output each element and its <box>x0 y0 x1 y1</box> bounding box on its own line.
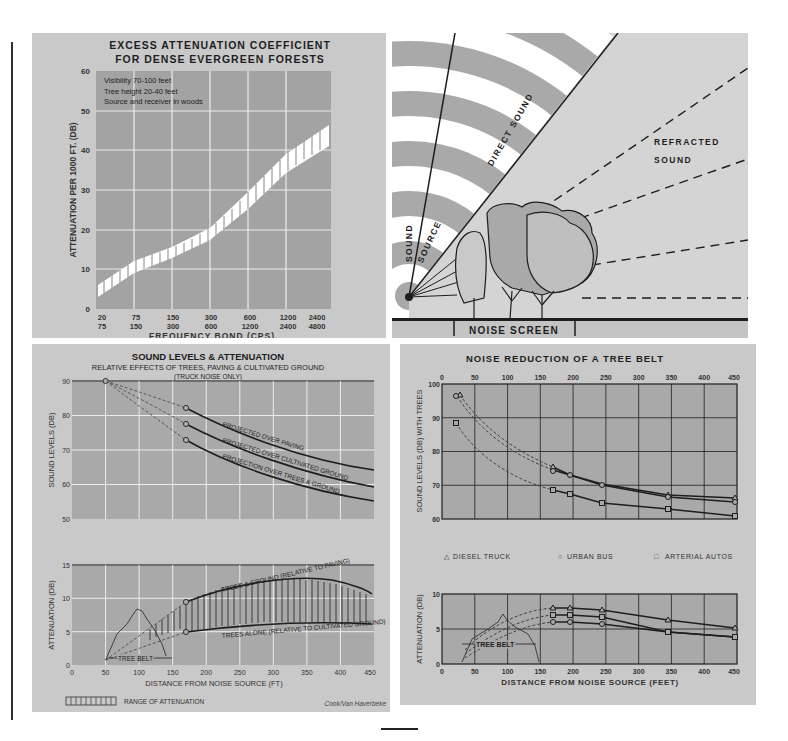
legend-diesel-truck: DIESEL TRUCK <box>453 553 511 560</box>
svg-text:20: 20 <box>81 226 90 235</box>
svg-text:350: 350 <box>301 669 313 676</box>
svg-text:50: 50 <box>102 669 110 676</box>
lower-y-label: ATTENUATION (DB) <box>47 580 56 650</box>
svg-text:100: 100 <box>502 374 514 381</box>
lower-x-ticks: 050 100150 200250 300350 400450 <box>440 668 740 675</box>
upper-y-label: SOUND LEVELS (DB) <box>47 412 56 488</box>
svg-text:20: 20 <box>98 313 106 322</box>
svg-text:5: 5 <box>66 629 70 636</box>
legend-range-swatch <box>66 697 116 705</box>
svg-text:400: 400 <box>698 668 710 675</box>
top-x-ticks: 050 100150 200250 300350 400450 <box>440 374 740 381</box>
tree-belt-label: TREE BELT <box>476 641 515 648</box>
svg-text:450: 450 <box>728 668 740 675</box>
svg-text:350: 350 <box>666 374 678 381</box>
svg-text:150: 150 <box>167 313 180 322</box>
svg-text:15: 15 <box>62 562 70 569</box>
svg-text:50: 50 <box>471 374 479 381</box>
svg-text:150: 150 <box>534 668 546 675</box>
svg-text:200: 200 <box>567 668 579 675</box>
sound-levels-attenuation-chart: SOUND LEVELS & ATTENUATION RELATIVE EFFE… <box>32 344 390 712</box>
svg-text:450: 450 <box>728 374 740 381</box>
svg-text:70: 70 <box>62 447 70 454</box>
panel-noise-screen-diagram: NOISE SCREEN DIRECT SOUND REFRACTED SOUN… <box>392 33 748 338</box>
legend-arterial-autos-icon: □ <box>654 553 659 560</box>
svg-text:1200: 1200 <box>280 313 297 322</box>
svg-text:0: 0 <box>440 374 444 381</box>
svg-text:100: 100 <box>502 668 514 675</box>
svg-text:200: 200 <box>567 374 579 381</box>
sound-label: SOUND <box>404 224 414 262</box>
svg-text:75: 75 <box>98 322 106 331</box>
credit-text: Cook/Van Haverbeke <box>324 700 386 707</box>
svg-text:300: 300 <box>633 668 645 675</box>
upper-y-ticks: 60 70 80 90 100 <box>428 381 440 523</box>
legend-urban-bus-icon: ○ <box>558 553 562 560</box>
svg-text:0: 0 <box>86 305 91 314</box>
chart-title: SOUND LEVELS & ATTENUATION <box>132 351 284 362</box>
x-axis-label: DISTANCE FROM NOISE SOURCE (FEET) <box>501 678 678 687</box>
svg-text:300: 300 <box>633 374 645 381</box>
svg-text:0: 0 <box>440 668 444 675</box>
svg-text:10: 10 <box>432 591 440 598</box>
svg-text:0: 0 <box>66 662 70 669</box>
svg-text:250: 250 <box>234 669 246 676</box>
refracted-label-line1: REFRACTED <box>654 137 720 147</box>
page-margin-rule <box>11 42 13 720</box>
panel-attenuation-coefficient: EXCESS ATTENUATION COEFFICIENT FOR DENSE… <box>32 33 386 338</box>
svg-text:80: 80 <box>62 412 70 419</box>
svg-text:150: 150 <box>167 669 179 676</box>
svg-text:0: 0 <box>70 669 74 676</box>
upper-y-ticks: 50 60 70 80 90 <box>62 378 70 523</box>
note-tree-height: Tree height 20-40 feet <box>104 87 178 96</box>
svg-text:40: 40 <box>81 146 90 155</box>
note-source-receiver: Source and receiver in woods <box>104 97 203 106</box>
svg-text:4800: 4800 <box>309 322 326 331</box>
svg-text:600: 600 <box>244 313 257 322</box>
svg-text:90: 90 <box>432 415 440 422</box>
chart-title-line1: EXCESS ATTENUATION COEFFICIENT <box>109 39 331 51</box>
svg-text:10: 10 <box>62 595 70 602</box>
svg-text:150: 150 <box>534 374 546 381</box>
lower-y-ticks: 0 5 10 <box>432 591 440 668</box>
svg-text:0: 0 <box>436 661 440 668</box>
upper-y-label: SOUND LEVELS (DB) WITH TREES <box>415 389 424 512</box>
legend-urban-bus: URBAN BUS <box>567 553 613 560</box>
x-axis-ticks: 2075 75150 150300 300600 6001200 1200240… <box>98 313 326 331</box>
svg-text:10: 10 <box>81 265 90 274</box>
svg-text:400: 400 <box>335 669 347 676</box>
svg-text:70: 70 <box>432 482 440 489</box>
page-footer-rule <box>381 728 418 730</box>
chart-subtitle: RELATIVE EFFECTS OF TREES, PAVING & CULT… <box>92 363 325 372</box>
svg-text:60: 60 <box>81 67 90 76</box>
svg-text:300: 300 <box>267 669 279 676</box>
chart-title-line2: FOR DENSE EVERGREEN FORESTS <box>115 53 325 65</box>
svg-text:150: 150 <box>130 322 143 331</box>
x-axis-label: FREQUENCY BOND (CPS) <box>149 331 275 338</box>
note-visibility: Visibility 70-100 feet <box>104 76 172 85</box>
y-axis-ticks: 0 10 20 30 40 50 60 <box>81 67 90 314</box>
chart-title: NOISE REDUCTION OF A TREE BELT <box>466 353 664 364</box>
svg-text:300: 300 <box>205 313 218 322</box>
y-axis-label: ATTENUATION PER 1000 FT. (DB) <box>68 122 78 257</box>
noise-screen-label: NOISE SCREEN <box>469 325 559 336</box>
panel-noise-reduction-tree-belt: NOISE REDUCTION OF A TREE BELT <box>400 344 756 705</box>
panel-sound-levels-attenuation: SOUND LEVELS & ATTENUATION RELATIVE EFFE… <box>32 344 390 712</box>
svg-text:80: 80 <box>432 448 440 455</box>
svg-text:250: 250 <box>600 374 612 381</box>
svg-text:50: 50 <box>471 668 479 675</box>
legend-arterial-autos: ARTERIAL AUTOS <box>665 553 733 560</box>
chart-subtitle-2: (TRUCK NOISE ONLY) <box>174 373 242 381</box>
ground-strip <box>392 321 748 338</box>
svg-text:5: 5 <box>436 626 440 633</box>
svg-text:2400: 2400 <box>309 313 326 322</box>
legend-diesel-truck-icon: △ <box>444 553 450 560</box>
sound-wave-rings <box>392 33 748 338</box>
lower-y-label: ATTENUATION (DB) <box>415 594 424 664</box>
svg-text:1200: 1200 <box>242 322 259 331</box>
svg-text:100: 100 <box>428 381 440 388</box>
svg-text:60: 60 <box>62 481 70 488</box>
tree-belt-label: TREE BELT <box>118 655 153 662</box>
noise-screen-diagram: NOISE SCREEN DIRECT SOUND REFRACTED SOUN… <box>392 33 748 338</box>
svg-text:450: 450 <box>364 669 376 676</box>
